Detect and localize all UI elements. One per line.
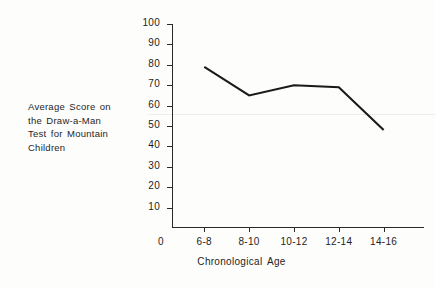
y-axis-title-line-2: the Draw-a-Man [28,114,148,128]
y-axis-title-line-4: Children [28,141,148,155]
y-tick-label-100: 100 [142,17,160,28]
x-tick-label-8-10: 8-10 [239,236,260,247]
x-tick-label-14-16: 14-16 [370,236,397,247]
x-tick-label-6-8: 6-8 [197,236,212,247]
y-tick-label-40: 40 [148,139,160,150]
origin-label: 0 [158,236,164,247]
y-tick-label-30: 30 [148,160,160,171]
y-axis-title-line-1: Average Score on [28,100,148,114]
x-axis-title: Chronological Age [0,256,435,267]
y-tick-label-10: 10 [148,201,160,212]
y-tick-label-90: 90 [148,37,160,48]
x-tick-label-12-14: 12-14 [325,236,352,247]
data-line-series [172,24,424,228]
series-polyline [204,67,383,130]
x-tick-label-10-12: 10-12 [280,236,307,247]
y-tick-label-60: 60 [148,99,160,110]
plot-area: 102030405060708090100 6-88-1010-1212-141… [172,24,424,228]
y-tick-label-70: 70 [148,78,160,89]
y-tick-label-20: 20 [148,180,160,191]
y-tick-label-80: 80 [148,58,160,69]
y-axis-title: Average Score on the Draw-a-Man Test for… [28,100,148,154]
y-axis-title-line-3: Test for Mountain [28,127,148,141]
y-tick-label-50: 50 [148,119,160,130]
chart-screenshot: Average Score on the Draw-a-Man Test for… [0,0,435,288]
